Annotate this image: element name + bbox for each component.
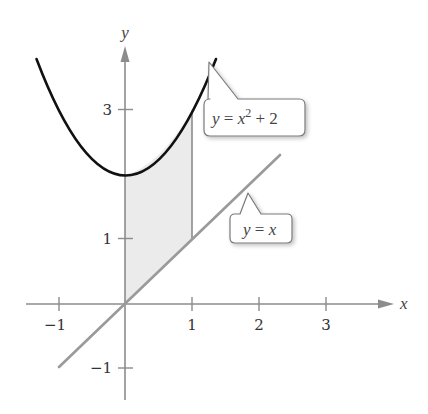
chart-figure: −1 1 2 3 x 3 1 −1 y y = x2 + 2 y = x [0, 0, 428, 414]
x-axis: −1 1 2 3 x [26, 294, 408, 334]
x-axis-arrow-icon [378, 300, 394, 309]
x-tick-label: 3 [321, 316, 331, 334]
x-tick-label: 1 [187, 316, 197, 334]
callout-parabola-label: y = x2 + 2 [210, 106, 278, 128]
callout-line-label: y = x [241, 220, 277, 239]
y-tick-label: 1 [102, 230, 112, 248]
y-tick-label: −1 [90, 359, 112, 377]
x-axis-label: x [399, 294, 408, 313]
y-axis-label: y [119, 23, 129, 42]
y-axis-arrow-icon [121, 46, 130, 62]
x-tick-label: 2 [254, 316, 264, 334]
x-tick-label: −1 [44, 316, 66, 334]
y-tick-label: 3 [102, 101, 112, 119]
shaded-region [125, 111, 192, 305]
